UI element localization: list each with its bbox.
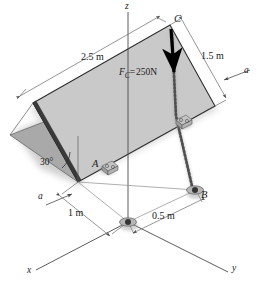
statics-figure: z y x C A B 2.5 m 1.5 m 1 m 0.5 m 30° a … — [0, 0, 260, 291]
ext-line-1m-a — [62, 182, 78, 194]
point-label-c: C — [174, 14, 181, 25]
dimension-label-0-5m: 0.5 m — [152, 211, 175, 221]
axis-label-x: x — [27, 266, 31, 276]
ext-line-right — [158, 18, 166, 22]
point-label-b: B — [201, 190, 207, 201]
angle-label-30deg: 30° — [40, 158, 53, 168]
axis-label-z: z — [125, 2, 129, 12]
ext-line-bot — [215, 100, 226, 106]
section-label-a-right: a — [244, 66, 249, 76]
section-label-a-left: a — [38, 192, 43, 202]
force-label-fc: FC= 250N — [119, 68, 157, 79]
point-label-a: A — [92, 159, 98, 170]
dimension-label-1-5m: 1.5 m — [201, 51, 224, 61]
figure-canvas — [0, 0, 260, 291]
dimension-label-2-5m: 2.5 m — [81, 52, 104, 62]
support-ball-origin — [120, 218, 139, 231]
force-magnitude: 250N — [136, 67, 157, 77]
x-axis — [36, 222, 128, 270]
axis-label-y: y — [232, 264, 236, 274]
force-equals: = — [130, 67, 135, 77]
ground-line-b — [78, 182, 196, 190]
y-axis — [128, 222, 228, 272]
section-mark-left — [46, 194, 72, 205]
dimension-label-1m: 1 m — [68, 208, 83, 218]
